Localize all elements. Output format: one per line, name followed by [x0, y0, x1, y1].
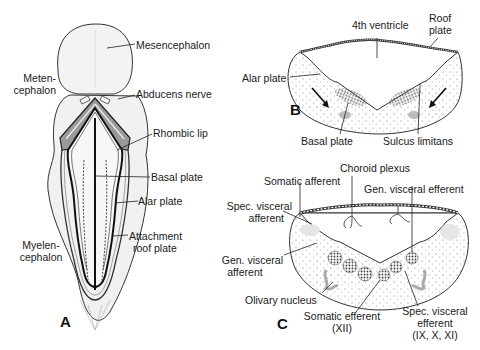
panel-letter-b: B: [290, 101, 301, 118]
label-alar-plate-a: Alar plate: [138, 195, 182, 207]
label-myelencephalon-2: cephalon: [18, 251, 64, 263]
label-spec-visceral-efferent-2: efferent: [390, 317, 480, 329]
label-metencephalon-1: Meten-: [18, 72, 56, 84]
label-sulcus-limitans: Sulcus limitans: [383, 135, 453, 147]
label-alar-plate-b: Alar plate: [242, 72, 286, 84]
label-fourth-ventricle: 4th ventricle: [352, 19, 409, 31]
label-gen-visceral-afferent-2: afferent: [215, 266, 275, 278]
label-attachment-1: Attachment: [129, 230, 182, 242]
label-somatic-efferent-2: (XII): [294, 322, 390, 334]
label-roof-plate-2: plate: [429, 24, 452, 36]
nucleus-c4: [378, 269, 390, 281]
label-somatic-afferent: Somatic afferent: [264, 175, 340, 187]
cross-section-b: [288, 38, 462, 134]
label-mesencephalon: Mesencephalon: [136, 39, 210, 51]
nucleus-c1: [328, 251, 342, 265]
label-spec-visceral-afferent-1: Spec. visceral: [214, 200, 292, 212]
nucleus-c5: [390, 261, 402, 273]
label-choroid-plexus: Choroid plexus: [340, 162, 410, 174]
nucleus-c2: [343, 259, 357, 273]
label-olivary-nucleus: Olivary nucleus: [245, 294, 317, 306]
label-spec-visceral-afferent-2: afferent: [214, 212, 284, 224]
panel-letter-a: A: [60, 313, 71, 330]
label-spec-visceral-efferent-3: (IX, X, XI): [390, 329, 480, 341]
label-roof-plate-1: Roof: [429, 12, 451, 24]
cross-section-c: [283, 176, 468, 312]
diagram-canvas: [0, 0, 480, 350]
label-metencephalon-2: cephalon: [10, 84, 56, 96]
label-basal-plate-b: Basal plate: [301, 135, 353, 147]
label-basal-plate-a: Basal plate: [151, 171, 203, 183]
label-gen-visceral-afferent-1: Gen. visceral: [205, 254, 283, 266]
brainstem-dorsal-view: [48, 24, 152, 330]
panel-letter-c: C: [277, 315, 288, 332]
nucleus-c6: [406, 252, 418, 264]
label-rhombic-lip: Rhombic lip: [153, 127, 208, 139]
label-attachment-2: roof plate: [133, 242, 177, 254]
nucleus-c3: [358, 267, 372, 281]
label-gen-visceral-efferent: Gen. visceral efferent: [364, 183, 464, 195]
label-spec-visceral-efferent-1: Spec. visceral: [390, 305, 480, 317]
label-abducens-nerve: Abducens nerve: [136, 88, 212, 100]
label-myelencephalon-1: Myelen-: [18, 239, 64, 251]
label-somatic-efferent-1: Somatic efferent: [294, 310, 390, 322]
roof-plate-c: [300, 205, 458, 213]
